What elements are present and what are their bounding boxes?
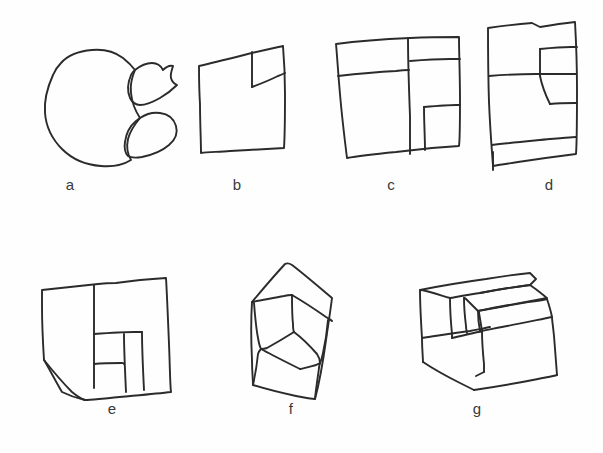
figure-g	[410, 262, 560, 402]
figure-f	[230, 258, 350, 403]
figure-c	[328, 28, 468, 168]
figure-c-drawing	[328, 28, 468, 168]
figure-plate: a b c	[0, 0, 603, 453]
figure-f-drawing	[230, 258, 350, 403]
figure-b	[190, 28, 300, 168]
figure-b-drawing	[190, 28, 300, 168]
figure-a-drawing	[20, 28, 170, 168]
figure-a-caption: a	[50, 176, 90, 193]
figure-d-drawing	[472, 14, 597, 174]
figure-b-caption: b	[217, 176, 257, 193]
figure-e-caption: e	[92, 400, 132, 417]
figure-g-drawing	[410, 262, 560, 402]
figure-a	[20, 28, 170, 168]
figure-d	[472, 14, 597, 174]
figure-e	[32, 272, 182, 402]
figure-f-caption: f	[271, 400, 311, 417]
figure-d-caption: d	[529, 176, 569, 193]
figure-g-caption: g	[457, 400, 497, 417]
figure-e-drawing	[32, 272, 182, 402]
figure-c-caption: c	[371, 176, 411, 193]
